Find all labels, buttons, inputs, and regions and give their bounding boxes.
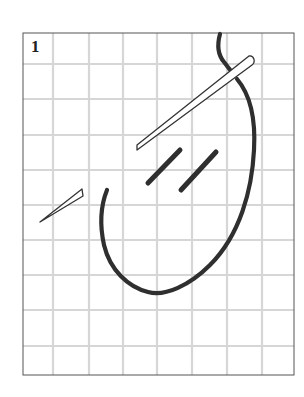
stitch-1 bbox=[148, 150, 180, 183]
step-number-label: 1 bbox=[31, 38, 40, 55]
thread-loop bbox=[101, 79, 254, 293]
embroidery-diagram: 1 bbox=[0, 0, 304, 397]
thread-tail bbox=[218, 34, 232, 72]
diagram-canvas bbox=[0, 0, 304, 397]
